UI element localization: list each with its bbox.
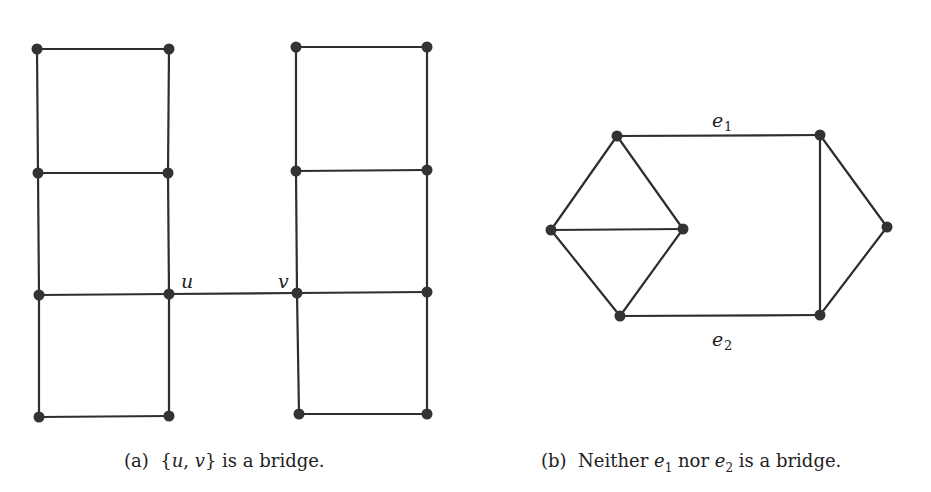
graph-a-edges (37, 47, 427, 417)
caption-a-u: u (172, 450, 184, 471)
edge (37, 49, 38, 173)
vertex (612, 131, 623, 142)
edge (38, 173, 39, 295)
caption-a: (a) {u, v} is a bridge. (124, 450, 325, 471)
vertex (291, 166, 302, 177)
vertex (34, 290, 45, 301)
vertex (678, 224, 689, 235)
vertex-label-u: u (181, 270, 193, 292)
edge (551, 229, 683, 230)
vertex-u (164, 289, 175, 300)
caption-a-v: v (195, 450, 205, 471)
vertex (815, 310, 826, 321)
caption-b: (b) Neither e1 nor e2 is a bridge. (541, 450, 841, 475)
bridge-figure: u v e 1 e (0, 0, 931, 492)
caption-a-brace-open: { (160, 450, 171, 471)
edge-label-e1-base: e (712, 109, 723, 131)
edge (551, 136, 617, 230)
vertex (164, 44, 175, 55)
vertex (815, 130, 826, 141)
caption-b-e2: e (715, 450, 726, 471)
caption-b-word1: Neither (578, 450, 654, 471)
graph-b-edges (551, 135, 887, 316)
edge-e2 (620, 315, 820, 316)
edge (296, 171, 297, 293)
vertex (422, 409, 433, 420)
vertex (294, 409, 305, 420)
vertex (164, 411, 175, 422)
caption-b-suffix: is a bridge. (733, 450, 841, 471)
vertex (33, 168, 44, 179)
caption-b-prefix: (b) (541, 450, 567, 471)
graph-a-nodes (32, 42, 433, 423)
vertex-v (292, 288, 303, 299)
edge (168, 173, 169, 294)
edge-e1 (617, 135, 820, 136)
edge (39, 294, 169, 295)
edge-label-e2: e 2 (712, 328, 732, 353)
edge (551, 230, 620, 316)
graph-b-nodes (546, 130, 893, 322)
vertex (32, 44, 43, 55)
edge-label-e2-base: e (712, 328, 723, 350)
caption-a-comma: , (183, 450, 194, 471)
bridge-edge-uv (169, 293, 297, 294)
vertex (615, 311, 626, 322)
caption-b-word2: nor (672, 450, 714, 471)
vertex (882, 222, 893, 233)
edge-label-e2-sub: 2 (724, 338, 732, 353)
edge (39, 416, 169, 417)
vertex-label-v: v (278, 270, 289, 292)
graph-a: u v (32, 42, 433, 423)
edge (617, 136, 683, 229)
caption-b-sub2: 2 (725, 461, 733, 475)
edge (820, 135, 887, 227)
edge (620, 229, 683, 316)
edge-label-e1: e 1 (712, 109, 732, 134)
vertex (422, 287, 433, 298)
caption-a-suffix: is a bridge. (216, 450, 324, 471)
graph-b: e 1 e 2 (546, 109, 893, 353)
edge-label-e1-sub: 1 (724, 119, 732, 134)
edge (297, 292, 427, 293)
vertex (422, 165, 433, 176)
vertex (163, 168, 174, 179)
vertex (546, 225, 557, 236)
caption-a-prefix: (a) (124, 450, 149, 471)
vertex (422, 42, 433, 53)
edge (820, 227, 887, 315)
vertex (34, 412, 45, 423)
edge (297, 293, 299, 414)
edge (296, 170, 427, 171)
edge (168, 49, 169, 173)
caption-b-e1: e (654, 450, 665, 471)
caption-a-brace-close: } (205, 450, 216, 471)
vertex (291, 42, 302, 53)
